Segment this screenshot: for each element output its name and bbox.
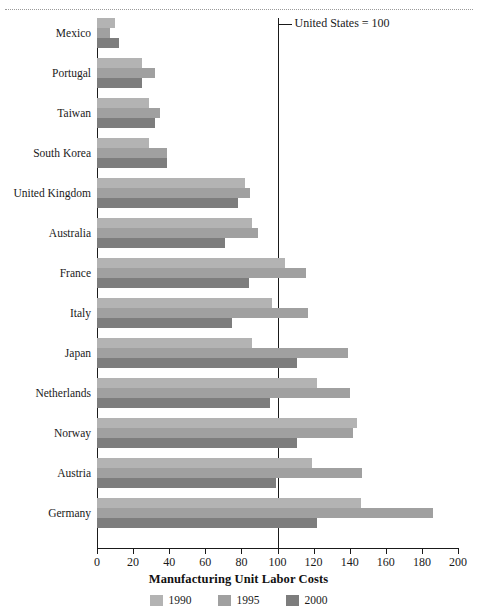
bar-italy-1995 [97,308,308,318]
bar-group [97,98,459,138]
category-label-netherlands: Netherlands [0,388,91,400]
bar-austria-1995 [97,468,362,478]
bar-united-kingdom-2000 [97,198,238,208]
bar-italy-1990 [97,298,272,308]
bar-netherlands-1995 [97,388,350,398]
bar-united-kingdom-1990 [97,178,245,188]
x-tick [133,548,134,554]
legend-swatch-1995 [218,595,231,606]
bar-portugal-2000 [97,78,142,88]
category-label-australia: Australia [0,228,91,240]
bar-group [97,298,459,338]
bar-japan-1990 [97,338,252,348]
x-tick-label: 180 [402,556,442,569]
bar-group [97,258,459,298]
x-tick [350,548,351,554]
bar-netherlands-1990 [97,378,317,388]
legend-swatch-2000 [286,595,299,606]
bar-group [97,58,459,98]
bar-portugal-1995 [97,68,155,78]
bar-portugal-1990 [97,58,142,68]
x-tick [314,548,315,554]
x-tick [169,548,170,554]
category-label-italy: Italy [0,308,91,320]
bar-group [97,498,459,538]
bar-france-1995 [97,268,306,278]
legend-item-2000: 2000 [286,594,328,606]
x-tick-label: 0 [77,556,117,569]
bar-group [97,458,459,498]
bar-group [97,138,459,178]
bar-group [97,378,459,418]
legend-swatch-1990 [150,595,163,606]
x-tick-label: 100 [258,556,298,569]
x-tick-label: 40 [149,556,189,569]
x-tick-label: 200 [438,556,477,569]
chart-legend: 199019952000 [0,594,477,606]
bar-group [97,18,459,58]
bar-group [97,218,459,258]
legend-item-1990: 1990 [150,594,192,606]
bar-mexico-2000 [97,38,119,48]
bar-germany-1995 [97,508,433,518]
chart-figure: United States = 100 MexicoPortugalTaiwan… [0,0,477,616]
bar-mexico-1995 [97,28,110,38]
x-tick [386,548,387,554]
bar-south-korea-2000 [97,158,167,168]
bar-austria-2000 [97,478,276,488]
bar-france-1990 [97,258,285,268]
category-label-mexico: Mexico [0,28,91,40]
bar-netherlands-2000 [97,398,270,408]
x-tick [97,548,98,554]
bar-united-kingdom-1995 [97,188,250,198]
legend-label-2000: 2000 [305,594,328,606]
x-tick-label: 20 [113,556,153,569]
bar-france-2000 [97,278,249,288]
legend-label-1990: 1990 [169,594,192,606]
bar-group [97,338,459,378]
bar-mexico-1990 [97,18,115,28]
category-label-norway: Norway [0,428,91,440]
category-label-taiwan: Taiwan [0,108,91,120]
category-label-germany: Germany [0,508,91,520]
bar-group [97,178,459,218]
category-label-united-kingdom: United Kingdom [0,188,91,200]
category-label-portugal: Portugal [0,68,91,80]
x-tick [458,548,459,554]
x-axis-title: Manufacturing Unit Labor Costs [0,572,477,587]
x-tick [278,548,279,554]
x-tick [205,548,206,554]
legend-label-1995: 1995 [237,594,260,606]
bar-germany-1990 [97,498,361,508]
bar-italy-2000 [97,318,232,328]
bar-group [97,418,459,458]
bar-australia-1995 [97,228,258,238]
bar-germany-2000 [97,518,317,528]
bar-rows [97,18,459,538]
x-tick-label: 160 [366,556,406,569]
x-tick [422,548,423,554]
x-tick-label: 80 [221,556,261,569]
bar-austria-1990 [97,458,312,468]
category-label-japan: Japan [0,348,91,360]
bar-south-korea-1995 [97,148,167,158]
bar-australia-2000 [97,238,225,248]
bar-taiwan-2000 [97,118,155,128]
bar-norway-2000 [97,438,297,448]
bar-norway-1995 [97,428,353,438]
x-tick-label: 140 [330,556,370,569]
category-label-south-korea: South Korea [0,148,91,160]
category-label-austria: Austria [0,468,91,480]
bar-taiwan-1995 [97,108,160,118]
bar-south-korea-1990 [97,138,149,148]
bar-taiwan-1990 [97,98,149,108]
top-divider [5,9,473,11]
category-label-france: France [0,268,91,280]
x-tick-label: 120 [294,556,334,569]
bar-japan-1995 [97,348,348,358]
legend-item-1995: 1995 [218,594,260,606]
x-tick-label: 60 [185,556,225,569]
bar-norway-1990 [97,418,357,428]
bar-japan-2000 [97,358,297,368]
bar-australia-1990 [97,218,252,228]
